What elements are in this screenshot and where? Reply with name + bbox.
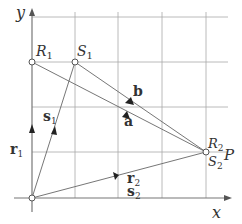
x-axis-arrow-icon [224, 195, 232, 201]
label-s2: S2 [208, 154, 223, 171]
y-axis-arrow-icon [29, 8, 35, 16]
r1-arrow-icon [29, 124, 35, 133]
vector-lines [32, 62, 206, 198]
label-s1-vector: s1 [43, 108, 57, 126]
y-axis-label: y [15, 3, 26, 22]
label-p: P [223, 146, 235, 164]
label-a-vector: a [124, 113, 133, 129]
label-r1: R1 [35, 43, 53, 61]
vector-diagram: x y R1 S1 R2 S2 P r1 s1 a b r2 s2 [0, 0, 242, 224]
label-r2: R2 [207, 136, 224, 153]
point-origin [29, 195, 35, 201]
point-r1 [29, 59, 35, 65]
label-s1: S1 [77, 43, 93, 61]
label-b-vector: b [133, 83, 143, 99]
x-axis-label: x [212, 203, 221, 222]
point-s1 [72, 59, 78, 65]
label-r1-vector: r1 [10, 141, 23, 159]
